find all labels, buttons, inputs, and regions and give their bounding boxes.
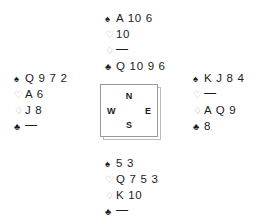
hand-east: ♠ K J 8 4 ♡ — ♢ A Q 9 ♣ 8 <box>193 71 245 134</box>
south-spades-cards: 5 3 <box>116 156 134 171</box>
club-icon: ♣ <box>193 119 204 134</box>
heart-icon: ♡ <box>14 87 25 102</box>
spade-icon: ♠ <box>105 156 116 171</box>
west-diamond-row: ♢ J 8 <box>14 103 68 118</box>
north-spades-cards: A 10 6 <box>116 11 153 26</box>
north-club-row: ♣ Q 10 9 6 <box>105 59 166 74</box>
club-icon: ♣ <box>105 59 116 74</box>
east-hearts-cards: — <box>204 86 216 101</box>
diamond-icon: ♢ <box>14 103 25 118</box>
west-spade-row: ♠ Q 9 7 2 <box>14 71 68 86</box>
hand-west: ♠ Q 9 7 2 ♡ A 6 ♢ J 8 ♣ — <box>14 71 68 134</box>
hand-south: ♠ 5 3 ♡ Q 7 5 3 ♢ K 10 ♣ — <box>105 156 159 219</box>
compass-west-label: W <box>107 106 116 115</box>
south-diamonds-cards: K 10 <box>116 188 142 203</box>
south-diamond-row: ♢ K 10 <box>105 188 159 203</box>
south-heart-row: ♡ Q 7 5 3 <box>105 172 159 187</box>
spade-icon: ♠ <box>14 71 25 86</box>
north-hearts-cards: 10 <box>116 27 130 42</box>
bridge-deal-diagram: ♠ A 10 6 ♡ 10 ♢ — ♣ Q 10 9 6 ♠ Q 9 7 2 ♡… <box>0 0 262 224</box>
west-spades-cards: Q 9 7 2 <box>25 71 68 86</box>
diamond-icon: ♢ <box>105 43 116 58</box>
north-clubs-cards: Q 10 9 6 <box>116 59 166 74</box>
west-diamonds-cards: J 8 <box>25 103 42 118</box>
north-diamond-row: ♢ — <box>105 43 166 58</box>
compass-east-label: E <box>145 106 151 115</box>
east-spade-row: ♠ K J 8 4 <box>193 71 245 86</box>
south-clubs-cards: — <box>116 203 128 218</box>
club-icon: ♣ <box>14 119 25 134</box>
west-clubs-cards: — <box>25 118 37 133</box>
north-diamonds-cards: — <box>116 42 128 57</box>
east-heart-row: ♡ — <box>193 87 245 102</box>
north-heart-row: ♡ 10 <box>105 27 166 42</box>
compass-box: N W E S <box>100 84 158 137</box>
hand-north: ♠ A 10 6 ♡ 10 ♢ — ♣ Q 10 9 6 <box>105 11 166 74</box>
heart-icon: ♡ <box>193 87 204 102</box>
south-club-row: ♣ — <box>105 204 159 219</box>
west-heart-row: ♡ A 6 <box>14 87 68 102</box>
east-club-row: ♣ 8 <box>193 119 245 134</box>
diamond-icon: ♢ <box>193 103 204 118</box>
spade-icon: ♠ <box>193 71 204 86</box>
south-spade-row: ♠ 5 3 <box>105 156 159 171</box>
east-diamonds-cards: A Q 9 <box>204 103 236 118</box>
south-hearts-cards: Q 7 5 3 <box>116 172 159 187</box>
north-spade-row: ♠ A 10 6 <box>105 11 166 26</box>
east-clubs-cards: 8 <box>204 119 211 134</box>
club-icon: ♣ <box>105 204 116 219</box>
compass-south-label: S <box>126 121 132 130</box>
heart-icon: ♡ <box>105 172 116 187</box>
heart-icon: ♡ <box>105 27 116 42</box>
east-diamond-row: ♢ A Q 9 <box>193 103 245 118</box>
diamond-icon: ♢ <box>105 188 116 203</box>
spade-icon: ♠ <box>105 11 116 26</box>
east-spades-cards: K J 8 4 <box>204 71 245 86</box>
compass-north-label: N <box>126 92 133 101</box>
west-hearts-cards: A 6 <box>25 87 44 102</box>
west-club-row: ♣ — <box>14 119 68 134</box>
